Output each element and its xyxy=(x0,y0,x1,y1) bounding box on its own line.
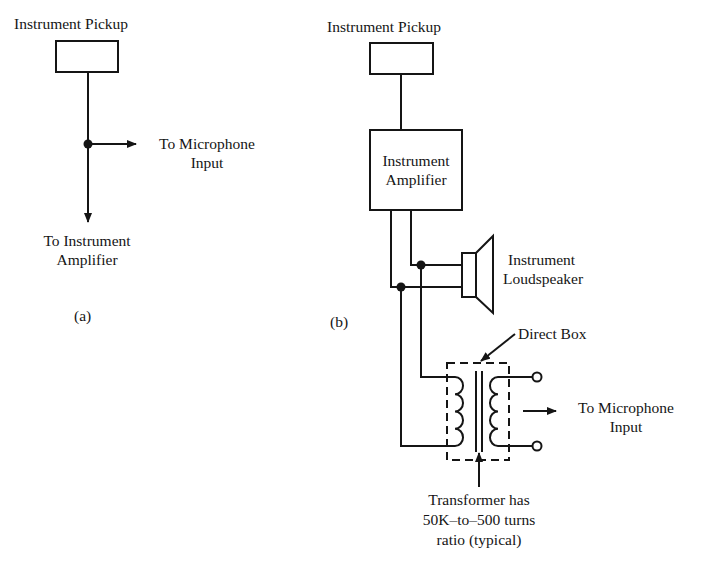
transformer-note-line-2: 50K–to–500 turns xyxy=(400,510,558,530)
junction-dot-a xyxy=(84,140,93,149)
mic-output-line-1: To Microphone xyxy=(143,134,271,153)
transformer-note-line-1: Transformer has xyxy=(400,490,558,510)
amplifier-line-2: Amplifier xyxy=(370,170,462,189)
mic-output-label-b: To Microphone Input xyxy=(562,398,690,436)
mic-output-b-line-2: Input xyxy=(562,417,690,436)
amplifier-label: Instrument Amplifier xyxy=(370,151,462,189)
loudspeaker-cone xyxy=(476,236,493,313)
wiring-diagram xyxy=(0,0,702,562)
junction-dot-b1 xyxy=(417,261,426,270)
caption-a: (a) xyxy=(74,306,91,325)
amp-output-line-2: Amplifier xyxy=(22,250,152,269)
output-terminal-bottom xyxy=(533,442,542,451)
direct-box-label: Direct Box xyxy=(518,324,586,343)
transformer-note-line-3: ratio (typical) xyxy=(400,530,558,550)
pickup-label-b: Instrument Pickup xyxy=(327,17,441,36)
loudspeaker-magnet xyxy=(462,253,476,297)
primary-coil xyxy=(455,377,463,446)
mic-output-label-a: To Microphone Input xyxy=(143,134,271,172)
mic-output-line-2: Input xyxy=(143,153,271,172)
amp-output-wire-2 xyxy=(411,210,462,265)
amp-output-label-a: To Instrument Amplifier xyxy=(22,231,152,269)
amp-output-wire-1 xyxy=(391,210,462,287)
pickup-box-a xyxy=(56,41,118,72)
output-terminal-top xyxy=(533,373,542,382)
tap-wire-2 xyxy=(421,265,455,377)
secondary-coil xyxy=(490,377,498,446)
pickup-label-a: Instrument Pickup xyxy=(14,14,128,33)
pickup-box-b xyxy=(370,43,433,74)
loudspeaker-line-1: Instrument xyxy=(503,250,583,269)
amp-output-line-1: To Instrument xyxy=(22,231,152,250)
transformer-note: Transformer has 50K–to–500 turns ratio (… xyxy=(400,490,558,550)
loudspeaker-line-2: Loudspeaker xyxy=(503,269,583,288)
loudspeaker-label: Instrument Loudspeaker xyxy=(503,250,583,288)
direct-box-pointer xyxy=(481,334,515,361)
amplifier-line-1: Instrument xyxy=(370,151,462,170)
caption-b: (b) xyxy=(330,312,348,331)
mic-output-b-line-1: To Microphone xyxy=(562,398,690,417)
junction-dot-b2 xyxy=(397,283,406,292)
